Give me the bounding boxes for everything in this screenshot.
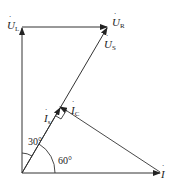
phasor-diagram: UL · UR · US · Is · IC · I · 30° 60° bbox=[0, 0, 173, 190]
angle-arc-30 bbox=[22, 153, 32, 156]
us-label: US bbox=[104, 38, 116, 52]
us-dot: · bbox=[106, 31, 108, 40]
ul-label: UL bbox=[7, 19, 19, 33]
is-label: Is bbox=[43, 112, 51, 126]
ul-dot: · bbox=[9, 12, 11, 21]
ic-label: IC bbox=[70, 104, 80, 118]
is-dot: · bbox=[45, 105, 47, 114]
angle-arc-60 bbox=[39, 144, 55, 173]
i-dot: · bbox=[162, 161, 164, 170]
angle-60-label: 60° bbox=[58, 155, 72, 166]
ic-dot: · bbox=[72, 97, 74, 106]
ic-phasor bbox=[60, 107, 67, 111]
angle-30-label: 30° bbox=[28, 136, 42, 147]
ur-label: UR bbox=[112, 16, 125, 30]
ur-dot: · bbox=[114, 9, 116, 18]
